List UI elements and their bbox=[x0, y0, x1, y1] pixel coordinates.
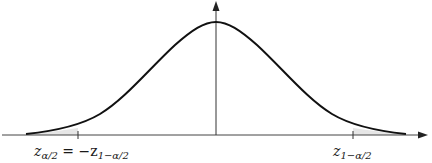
left-critical-label: zα/2 = −z1−α/2 bbox=[34, 144, 129, 161]
left-equals-neg-z: = −z bbox=[58, 143, 98, 159]
normal-distribution-diagram bbox=[0, 0, 432, 163]
left-z-subscript: α/2 bbox=[41, 150, 57, 161]
y-axis-arrow-icon bbox=[213, 1, 220, 11]
left-eq-subscript: 1−α/2 bbox=[98, 150, 129, 161]
x-axis-arrow-icon bbox=[418, 132, 428, 139]
right-z-subscript: 1−α/2 bbox=[340, 150, 371, 161]
right-critical-label: z1−α/2 bbox=[333, 144, 372, 161]
